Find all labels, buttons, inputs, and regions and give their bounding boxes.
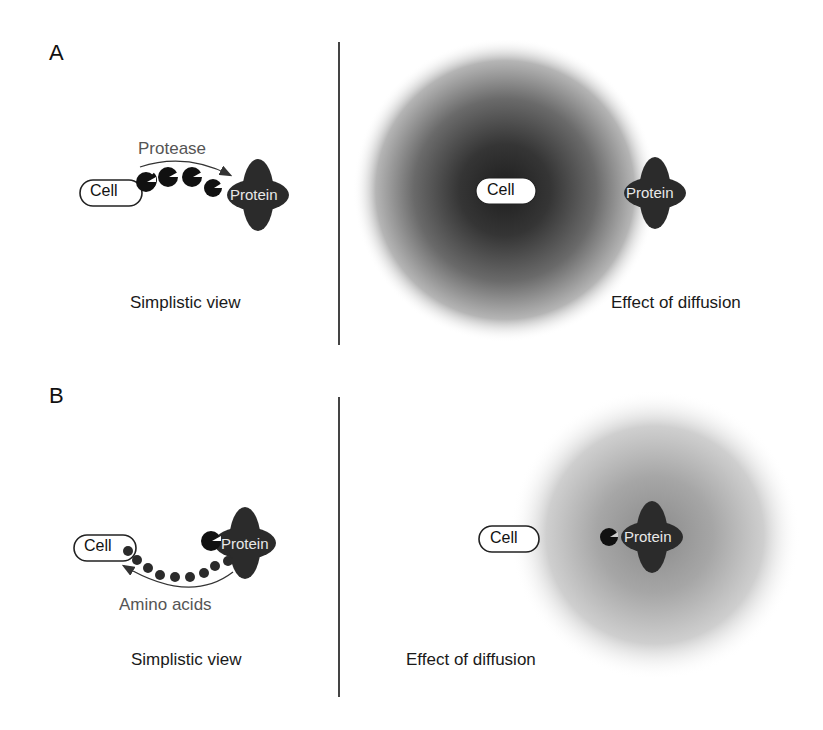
caption-simplistic-view-a: Simplistic view [130,293,241,313]
protein-label: Protein [626,184,674,201]
cell-label: Cell [490,529,518,547]
protease-label: Protease [138,139,206,159]
protein-label: Protein [624,528,672,545]
caption-simplistic-view-b: Simplistic view [131,650,242,670]
diagram-canvas [0,0,823,730]
caption-effect-of-diffusion-b: Effect of diffusion [406,650,536,670]
protein-label: Protein [221,535,269,552]
amino-acids-label: Amino acids [119,595,212,615]
cell-label: Cell [487,181,515,199]
amino-acid-dots [123,546,233,582]
cell-label: Cell [84,537,112,555]
cell-label: Cell [90,182,118,200]
caption-effect-of-diffusion-a: Effect of diffusion [611,293,741,313]
protein-label: Protein [230,186,278,203]
